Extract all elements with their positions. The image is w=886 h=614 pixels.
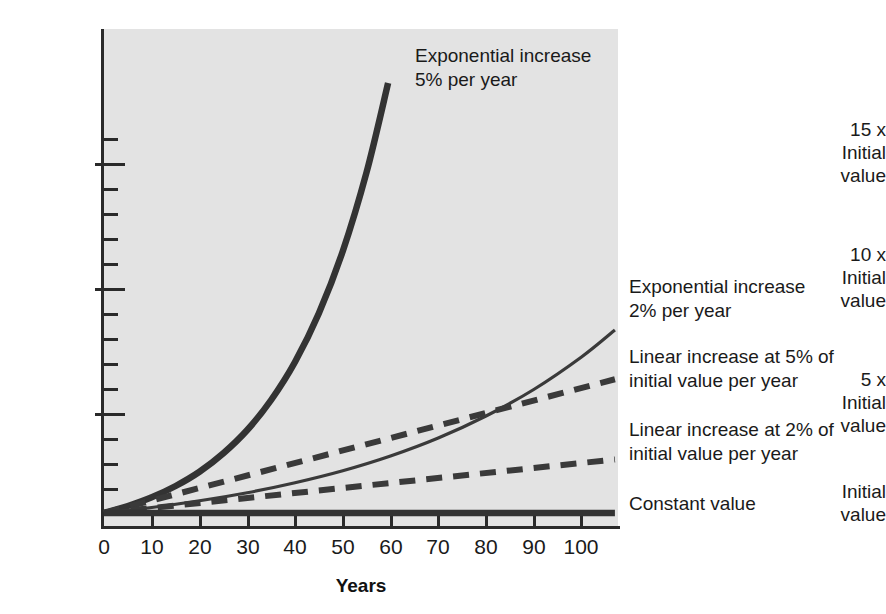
annotation-line1: Exponential increase xyxy=(629,275,805,299)
annotation-linear-2pct: Linear increase at 2% of initial value p… xyxy=(629,418,834,466)
annotation-line1: Constant value xyxy=(629,492,756,516)
annotation-line1: Exponential increase xyxy=(415,44,591,68)
annotation-line2: 2% per year xyxy=(629,299,805,323)
annotation-exponential-2pct: Exponential increase 2% per year xyxy=(629,275,805,323)
annotation-line1: Linear increase at 5% of xyxy=(629,345,834,369)
annotation-line2: initial value per year xyxy=(629,442,834,466)
chart-figure: 15 x Initial value 10 x Initial value 5 … xyxy=(0,0,886,614)
annotation-constant-value: Constant value xyxy=(629,492,756,516)
series-line-2 xyxy=(104,379,615,513)
annotation-line1: Linear increase at 2% of xyxy=(629,418,834,442)
annotation-line2: initial value per year xyxy=(629,369,834,393)
annotation-exponential-5pct: Exponential increase 5% per year xyxy=(415,44,591,92)
annotation-linear-5pct: Linear increase at 5% of initial value p… xyxy=(629,345,834,393)
annotation-line2: 5% per year xyxy=(415,68,591,92)
